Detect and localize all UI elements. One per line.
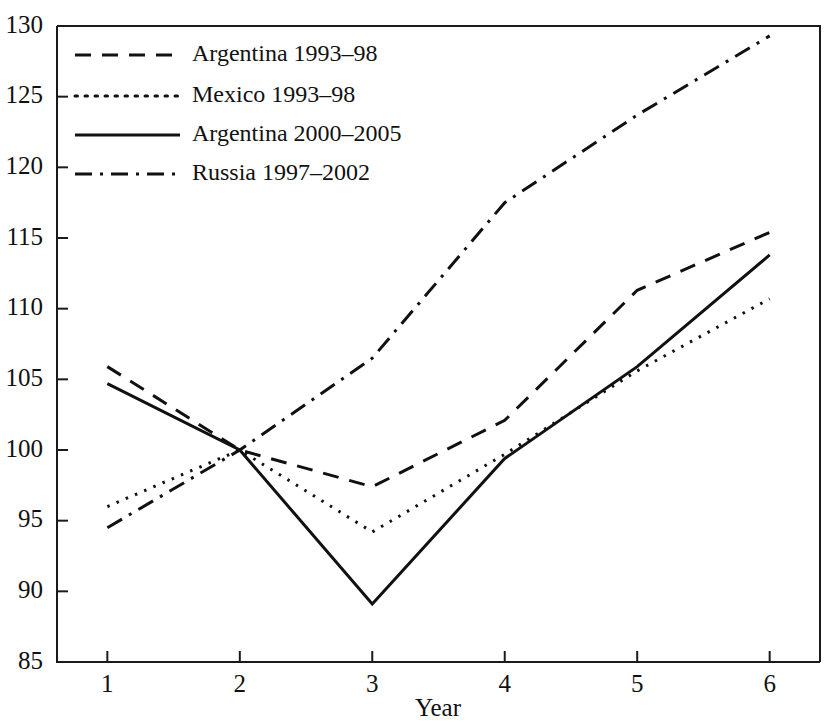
line-chart: 859095100105110115120125130 123456 Year …	[0, 0, 839, 723]
series-line-0	[107, 232, 769, 486]
plot-frame	[57, 26, 820, 662]
y-tick-label: 90	[18, 576, 43, 603]
series-line-1	[107, 299, 769, 532]
legend-label: Russia 1997–2002	[192, 159, 370, 185]
legend-item-3: Russia 1997–2002	[75, 159, 370, 185]
y-tick-label: 100	[6, 435, 44, 462]
legend-item-2: Argentina 2000–2005	[75, 120, 402, 146]
x-tick-label: 4	[498, 670, 511, 697]
x-tick-label: 5	[631, 670, 644, 697]
x-axis-title: Year	[415, 694, 462, 721]
legend-item-1: Mexico 1993–98	[75, 81, 355, 107]
y-axis-tick-marks	[57, 97, 68, 592]
y-tick-label: 125	[6, 81, 44, 108]
y-tick-label: 115	[6, 223, 43, 250]
series-line-3	[107, 36, 769, 528]
legend-label: Argentina 2000–2005	[192, 120, 402, 146]
y-tick-label: 110	[6, 293, 43, 320]
y-axis-tick-labels: 859095100105110115120125130	[6, 11, 44, 674]
legend-label: Argentina 1993–98	[192, 40, 378, 66]
x-tick-label: 6	[763, 670, 776, 697]
x-axis-tick-marks	[107, 651, 769, 662]
y-tick-label: 105	[6, 364, 44, 391]
legend-item-0: Argentina 1993–98	[75, 40, 378, 66]
x-tick-label: 2	[234, 670, 247, 697]
y-tick-label: 120	[6, 152, 44, 179]
y-tick-label: 85	[18, 647, 43, 674]
legend-label: Mexico 1993–98	[192, 81, 355, 107]
chart-legend: Argentina 1993–98Mexico 1993–98Argentina…	[75, 40, 402, 185]
x-tick-label: 1	[101, 670, 114, 697]
x-axis-tick-labels: 123456	[101, 670, 776, 697]
y-tick-label: 95	[18, 505, 43, 532]
x-tick-label: 3	[366, 670, 379, 697]
chart-figure: 859095100105110115120125130 123456 Year …	[0, 0, 839, 723]
y-tick-label: 130	[6, 11, 44, 38]
